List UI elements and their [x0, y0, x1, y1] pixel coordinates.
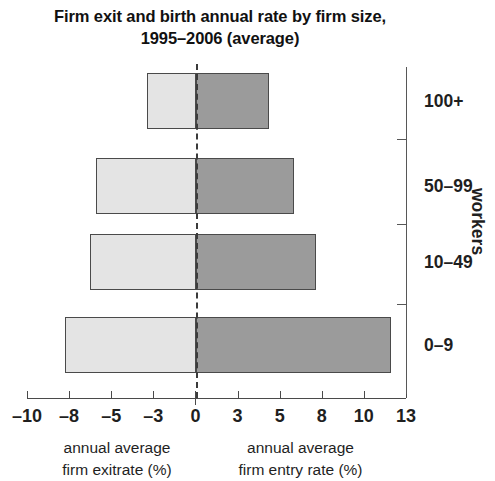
zero-reference-line	[196, 64, 198, 398]
x-axis-tick-label: 8	[317, 406, 327, 427]
plot-area: –10–8–5–303581013 100+50–9910–490–9 work…	[0, 0, 495, 481]
x-axis-caption-left-line-2: firm exitrate (%)	[32, 459, 202, 481]
x-axis-tick	[195, 391, 196, 405]
y-axis-title: workers	[467, 188, 488, 255]
x-axis-caption-right-line-1: annual average	[208, 437, 393, 459]
x-axis-caption-left-line-1: annual average	[32, 437, 202, 459]
x-axis-tick	[280, 391, 281, 398]
category-label: 0–9	[424, 335, 453, 356]
y-axis-tick	[397, 139, 406, 140]
bar-segment-exit	[90, 234, 196, 290]
x-axis-tick	[238, 391, 239, 398]
bar-row	[0, 317, 495, 373]
bar-segment-exit	[147, 73, 196, 129]
chart-figure: Firm exit and birth annual rate by firm …	[0, 0, 495, 481]
y-axis-line	[406, 67, 407, 394]
x-axis-caption-right: annual average firm entry rate (%)	[208, 437, 393, 480]
bar-segment-exit	[65, 317, 196, 373]
bar-row	[0, 73, 495, 129]
bar-segment-entry	[196, 158, 294, 214]
bar-segment-entry	[196, 234, 316, 290]
bar-segment-entry	[196, 317, 391, 373]
x-axis-caption-right-line-2: firm entry rate (%)	[208, 459, 393, 481]
bar-row	[0, 158, 495, 214]
x-axis-tick	[364, 391, 365, 398]
bar-row	[0, 234, 495, 290]
x-axis-tick-label: –8	[59, 406, 79, 427]
bar-segment-exit	[96, 158, 196, 214]
category-label: 50–99	[424, 176, 473, 197]
x-axis-tick	[153, 391, 154, 398]
x-axis-caption-left: annual average firm exitrate (%)	[32, 437, 202, 480]
x-axis-tick-label: 13	[396, 406, 416, 427]
category-label: 10–49	[424, 252, 473, 273]
category-label: 100+	[424, 91, 463, 112]
y-axis-tick	[397, 304, 406, 305]
x-axis-tick-label: –3	[143, 406, 163, 427]
x-axis-tick-label: –10	[12, 406, 42, 427]
x-axis-line	[27, 398, 406, 399]
x-axis-tick-label: 10	[354, 406, 374, 427]
bar-segment-entry	[196, 73, 269, 129]
x-axis-tick-label: 0	[190, 406, 200, 427]
y-axis-tick	[397, 224, 406, 225]
x-axis-tick	[111, 391, 112, 398]
x-axis-tick	[27, 391, 28, 398]
x-axis-tick	[69, 391, 70, 398]
x-axis-tick	[322, 391, 323, 398]
x-axis-tick-label: 5	[275, 406, 285, 427]
x-axis-tick-label: –5	[101, 406, 121, 427]
x-axis-tick-label: 3	[233, 406, 243, 427]
